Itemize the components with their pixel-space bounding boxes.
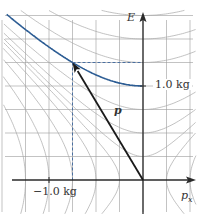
momentum-tick-label: −1.0 kg bbox=[33, 186, 77, 197]
momentum-axis-subscript: x bbox=[188, 195, 193, 204]
momentum-axis-letter: p bbox=[181, 189, 188, 202]
axes bbox=[12, 12, 196, 214]
energy-axis-label: E bbox=[127, 12, 135, 23]
energy-momentum-diagram bbox=[0, 0, 206, 220]
momentum-axis-label: px bbox=[181, 190, 193, 204]
invariant-hyperbolas bbox=[3, 10, 196, 213]
grid-lines bbox=[2, 16, 193, 213]
mass-shell-curve bbox=[7, 14, 142, 86]
energy-tick-label: 1.0 kg bbox=[153, 79, 192, 90]
vector-label: p bbox=[114, 105, 122, 116]
